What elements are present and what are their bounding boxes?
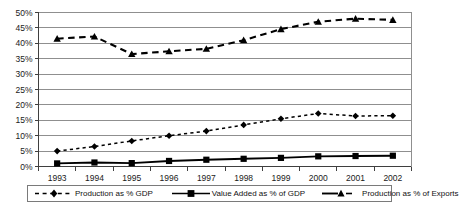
y-axis-tick-label: 5% bbox=[20, 146, 33, 156]
x-axis-tick-label: 1998 bbox=[234, 173, 253, 183]
x-axis-tick-label: 2001 bbox=[346, 173, 365, 183]
chart-legend: Production as % GDP Value Added as % of … bbox=[27, 185, 392, 202]
legend-key-dashed-triangle bbox=[321, 188, 361, 199]
data-point-marker bbox=[166, 158, 172, 164]
data-point-marker bbox=[352, 153, 358, 159]
y-axis-tick-label: 35% bbox=[15, 54, 32, 64]
y-axis-tick-label: 0% bbox=[20, 162, 33, 172]
y-axis-tick-label: 15% bbox=[15, 115, 32, 125]
x-axis-tick-label: 1993 bbox=[48, 173, 67, 183]
legend-key-solid-square bbox=[171, 188, 211, 199]
y-axis-tick-label: 50% bbox=[15, 8, 32, 18]
data-point-marker bbox=[315, 153, 321, 159]
x-axis-tick-label: 1997 bbox=[197, 173, 216, 183]
legend-item-value-added-gdp: Value Added as % of GDP bbox=[171, 186, 305, 201]
y-axis-tick-label: 45% bbox=[15, 23, 32, 33]
x-axis-tick-label: 1999 bbox=[271, 173, 290, 183]
legend-label: Production as % of Exports bbox=[361, 189, 459, 198]
x-axis-tick-label: 2002 bbox=[383, 173, 402, 183]
x-axis-tick-label: 2000 bbox=[309, 173, 328, 183]
legend-item-production-gdp: Production as % GDP bbox=[34, 186, 153, 201]
data-point-marker bbox=[241, 156, 247, 162]
legend-key-dotted-diamond bbox=[34, 188, 74, 199]
data-point-marker bbox=[91, 159, 97, 165]
data-point-marker bbox=[278, 155, 284, 161]
data-point-marker bbox=[129, 160, 135, 166]
legend-label: Value Added as % of GDP bbox=[211, 189, 305, 198]
y-axis-tick-label: 10% bbox=[15, 131, 32, 141]
data-point-marker bbox=[54, 160, 60, 166]
x-axis-tick-label: 1995 bbox=[122, 173, 141, 183]
data-point-marker bbox=[203, 157, 209, 163]
y-axis-tick-label: 30% bbox=[15, 69, 32, 79]
x-axis-tick-label: 1996 bbox=[160, 173, 179, 183]
x-axis-tick-label: 1994 bbox=[85, 173, 104, 183]
y-axis-tick-label: 40% bbox=[15, 38, 32, 48]
y-axis-tick-label: 20% bbox=[15, 100, 32, 110]
data-point-marker bbox=[390, 153, 396, 159]
y-axis-tick-label: 25% bbox=[15, 85, 32, 95]
legend-item-production-exports: Production as % of Exports bbox=[321, 186, 459, 201]
legend-label: Production as % GDP bbox=[74, 189, 153, 198]
